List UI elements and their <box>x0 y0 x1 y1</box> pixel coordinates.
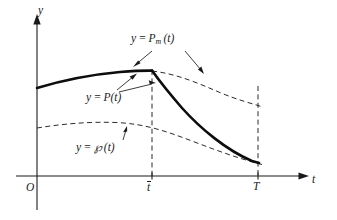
leader-scriptp-to-lower-dashed-arrowhead <box>123 126 127 132</box>
tick-label-t-bar-text: t <box>147 181 150 194</box>
t-axis-label-text: t <box>312 173 315 185</box>
annotation-leaders-group <box>117 51 204 140</box>
tick-label-t-bar: t <box>147 181 150 194</box>
curve-lower-dashed-scriptp <box>37 122 264 165</box>
leader-pm-to-upper-dashed <box>185 51 201 70</box>
origin-label-text: O <box>26 181 34 193</box>
t-axis-arrowhead <box>299 172 310 179</box>
origin-label: O <box>26 182 34 194</box>
tick-label-T-text: T <box>253 180 259 192</box>
tick-label-T: T <box>253 181 259 193</box>
annotation-label-pm: y = Pm (t) <box>131 33 174 46</box>
leader-p-to-solid-right <box>119 84 152 92</box>
annotation-label-script-p: y = ℘ (t) <box>76 142 115 154</box>
curve-solid-p-rising <box>37 71 152 88</box>
y-axis-label-text: y <box>38 4 43 16</box>
annotation-p-fn: P <box>104 91 111 103</box>
annotation-label-p: y = P(t) <box>86 92 121 104</box>
annotation-p-arg: (t) <box>111 91 122 103</box>
annotation-pm-arg: (t) <box>164 32 175 44</box>
annotation-scriptp-arg: (t) <box>104 141 115 153</box>
curve-upper-dashed-pm <box>152 71 263 107</box>
annotation-pm-fn: P <box>149 32 156 44</box>
figure-container: y t O t T y = Pm (t) y = P(t) y = ℘ (t) <box>0 0 337 220</box>
annotation-scriptp-fn: ℘ <box>94 140 102 154</box>
curve-solid-p-falling <box>152 71 259 163</box>
y-axis-label: y <box>38 5 43 17</box>
t-axis-label: t <box>312 174 315 186</box>
